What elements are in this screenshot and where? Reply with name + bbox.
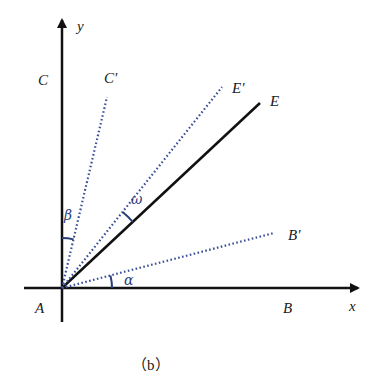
- point-label-A: A: [34, 300, 45, 316]
- figure-caption: （b）: [132, 357, 170, 373]
- angle-arc-alpha: [110, 276, 112, 289]
- coordinate-diagram: y x C C' E' E B' A B α β ω （b）: [0, 0, 372, 388]
- x-axis-label: x: [348, 298, 356, 314]
- ray-AE: [62, 103, 260, 288]
- angle-arc-beta: [62, 238, 74, 239]
- point-label-C-prime: C': [104, 70, 118, 86]
- y-axis-label: y: [75, 18, 84, 34]
- point-label-E: E: [269, 93, 279, 109]
- angle-arc-omega: [123, 212, 133, 222]
- point-label-E-prime: E': [231, 80, 245, 96]
- point-label-C: C: [38, 72, 49, 88]
- angle-label-alpha: α: [124, 272, 134, 288]
- point-label-B: B: [283, 300, 292, 316]
- ray-AE-prime: [62, 87, 222, 288]
- figure-b: y x C C' E' E B' A B α β ω （b）: [0, 0, 372, 388]
- point-label-B-prime: B': [288, 227, 301, 243]
- angle-label-omega: ω: [131, 191, 143, 207]
- angle-label-beta: β: [63, 207, 72, 223]
- ray-AB-prime: [62, 233, 274, 288]
